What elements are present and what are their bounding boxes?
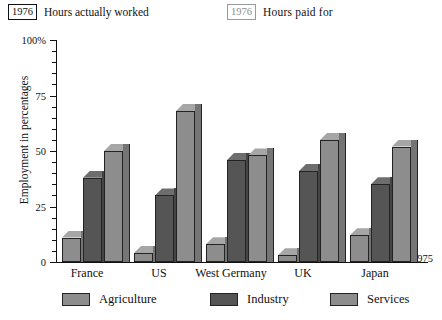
- bar-west-germany-industry[interactable]: [227, 160, 246, 262]
- category-label-japan: Japan: [334, 266, 416, 280]
- legend-item-services[interactable]: Services: [330, 292, 409, 306]
- legend-item-industry[interactable]: Industry: [210, 292, 289, 306]
- year-box-worked: 1976: [8, 4, 37, 20]
- bar-japan-services[interactable]: [392, 147, 411, 262]
- legend-label-industry: Industry: [247, 292, 289, 306]
- bar-uk-services[interactable]: [320, 140, 339, 262]
- bars-layer: [0, 26, 442, 278]
- year-box-paid: 1976: [227, 4, 256, 20]
- legend-label-services: Services: [367, 292, 409, 306]
- category-label-us: US: [118, 266, 200, 280]
- bar-france-industry[interactable]: [83, 178, 102, 262]
- legend-item-agriculture[interactable]: Agriculture: [62, 292, 157, 306]
- bar-japan-agriculture[interactable]: [350, 235, 369, 262]
- plot-area: 100%7550250 Employment in percentages 19…: [0, 26, 442, 278]
- chart-root: 1976 Hours actually worked 1976 Hours pa…: [0, 0, 442, 320]
- category-label-west-germany: West Germany: [190, 266, 272, 280]
- bar-west-germany-agriculture[interactable]: [206, 244, 225, 262]
- bar-side-face: [123, 144, 130, 262]
- bar-us-industry[interactable]: [155, 195, 174, 262]
- bar-us-services[interactable]: [176, 111, 195, 262]
- bar-side-face: [411, 140, 418, 262]
- bar-uk-industry[interactable]: [299, 171, 318, 262]
- legend-swatch-industry: [210, 293, 238, 306]
- header-item-hours-paid: 1976 Hours paid for: [227, 4, 333, 20]
- header-label-paid: Hours paid for: [263, 6, 333, 19]
- bar-west-germany-services[interactable]: [248, 155, 267, 262]
- legend-swatch-services: [330, 293, 358, 306]
- legend-swatch-agriculture: [62, 293, 90, 306]
- category-label-uk: UK: [262, 266, 344, 280]
- chart-header-legend: 1976 Hours actually worked 1976 Hours pa…: [0, 0, 442, 26]
- bar-japan-industry[interactable]: [371, 184, 390, 262]
- bar-france-services[interactable]: [104, 151, 123, 262]
- legend-label-agriculture: Agriculture: [99, 292, 157, 306]
- category-label-france: France: [46, 266, 128, 280]
- bar-uk-agriculture[interactable]: [278, 255, 297, 262]
- series-legend: AgricultureIndustryServices: [0, 285, 442, 320]
- header-label-worked: Hours actually worked: [44, 6, 149, 19]
- bar-france-agriculture[interactable]: [62, 238, 81, 262]
- bar-us-agriculture[interactable]: [134, 253, 153, 262]
- bar-side-face: [267, 148, 274, 262]
- header-item-hours-worked: 1976 Hours actually worked: [8, 4, 149, 20]
- bar-side-face: [339, 133, 346, 262]
- bar-side-face: [195, 104, 202, 262]
